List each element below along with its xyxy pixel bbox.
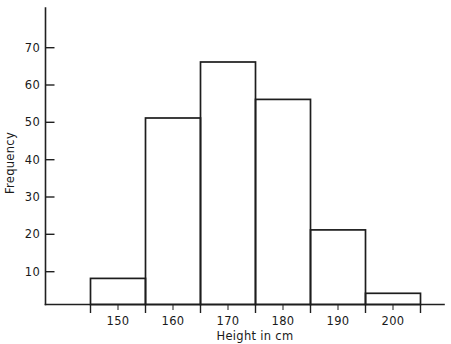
chart-background <box>0 0 451 344</box>
x-tick-label-170: 170 <box>217 314 240 328</box>
y-tick-label-20: 20 <box>25 227 40 241</box>
y-axis-title: Frequency <box>3 132 17 194</box>
x-tick-label-150: 150 <box>107 314 130 328</box>
x-tick-label-190: 190 <box>327 314 350 328</box>
chart-canvas: 70 60 50 40 30 20 10 <box>0 0 451 344</box>
y-tick-label-60: 60 <box>25 78 40 92</box>
x-tick-label-160: 160 <box>162 314 185 328</box>
y-tick-label-10: 10 <box>25 265 40 279</box>
x-tick-label-200: 200 <box>382 314 405 328</box>
y-tick-label-70: 70 <box>25 41 40 55</box>
y-tick-label-50: 50 <box>25 115 40 129</box>
histogram-chart: 70 60 50 40 30 20 10 <box>0 0 451 344</box>
y-tick-label-40: 40 <box>25 153 40 167</box>
x-axis-title: Height in cm <box>217 329 294 343</box>
y-tick-label-30: 30 <box>25 190 40 204</box>
x-tick-label-180: 180 <box>272 314 295 328</box>
